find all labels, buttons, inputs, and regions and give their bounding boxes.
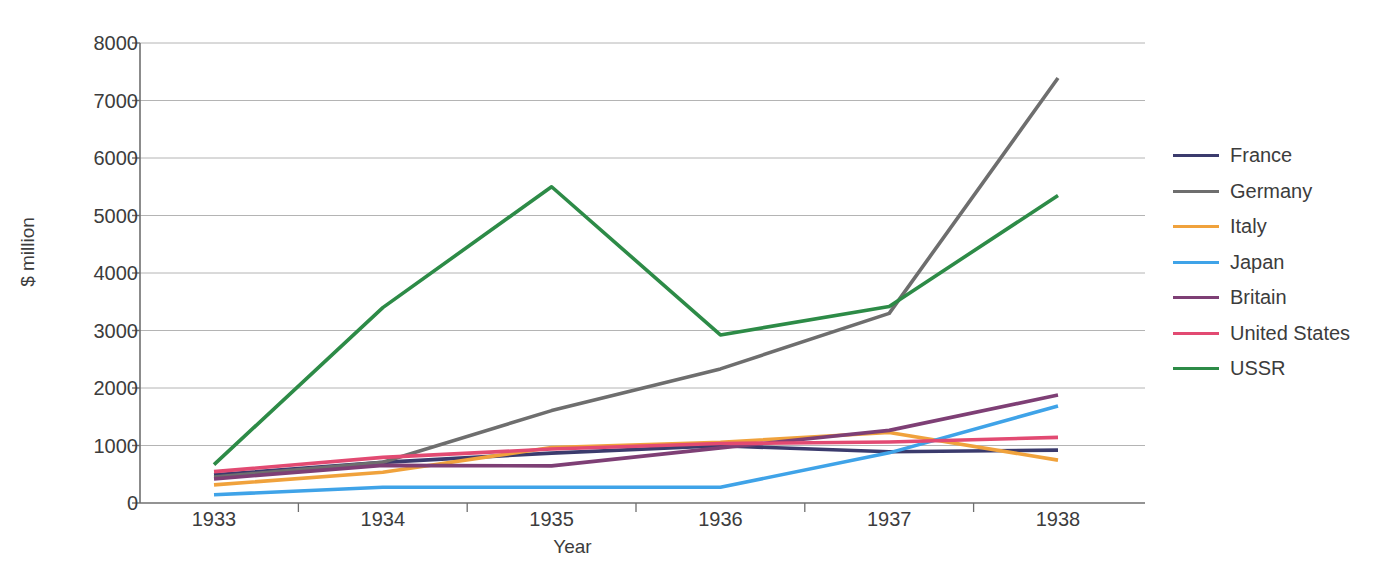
y-tick-label: 7000	[58, 89, 138, 112]
legend-color-swatch	[1173, 332, 1219, 335]
legend-color-swatch	[1173, 296, 1219, 299]
legend-color-swatch	[1173, 225, 1219, 228]
x-tick-label-1935: 1935	[529, 508, 574, 531]
series-lines	[214, 78, 1058, 495]
legend-item-label: USSR	[1230, 357, 1286, 380]
legend-color-swatch	[1173, 261, 1219, 264]
legend-item-label: United States	[1230, 322, 1350, 345]
x-tick-label-1936: 1936	[698, 508, 743, 531]
y-tick-label: 4000	[58, 262, 138, 285]
x-tick-label-1934: 1934	[361, 508, 406, 531]
legend-item-japan[interactable]: Japan	[1173, 245, 1389, 281]
y-tick-label: 1000	[58, 434, 138, 457]
x-tick-label-1938: 1938	[1036, 508, 1081, 531]
y-tick-label: 6000	[58, 147, 138, 170]
legend-item-ussr[interactable]: USSR	[1173, 351, 1389, 387]
legend-color-swatch	[1173, 190, 1219, 193]
legend-item-britain[interactable]: Britain	[1173, 280, 1389, 316]
legend: FranceGermanyItalyJapanBritainUnited Sta…	[1173, 138, 1389, 387]
legend-item-label: Britain	[1230, 286, 1287, 309]
legend-item-label: France	[1230, 144, 1292, 167]
y-tick-label: 8000	[58, 32, 138, 55]
y-tick-label: 5000	[58, 204, 138, 227]
legend-item-label: Germany	[1230, 180, 1312, 203]
gridlines	[140, 43, 1145, 446]
legend-item-label: Japan	[1230, 251, 1285, 274]
line-chart: $ million 010002000300040005000600070008…	[0, 0, 1389, 587]
y-axis-tick-labels: 010002000300040005000600070008000	[28, 0, 138, 520]
legend-color-swatch	[1173, 154, 1219, 157]
x-axis-label-text: Year	[0, 536, 1145, 558]
y-tick-label: 0	[58, 492, 138, 515]
y-tick-label: 2000	[58, 377, 138, 400]
legend-item-france[interactable]: France	[1173, 138, 1389, 174]
x-tick-label-1937: 1937	[867, 508, 912, 531]
x-tick-label-1933: 1933	[192, 508, 237, 531]
legend-item-label: Italy	[1230, 215, 1267, 238]
legend-item-germany[interactable]: Germany	[1173, 174, 1389, 210]
y-tick-label: 3000	[58, 319, 138, 342]
legend-color-swatch	[1173, 367, 1219, 370]
legend-item-united-states[interactable]: United States	[1173, 316, 1389, 352]
legend-item-italy[interactable]: Italy	[1173, 209, 1389, 245]
